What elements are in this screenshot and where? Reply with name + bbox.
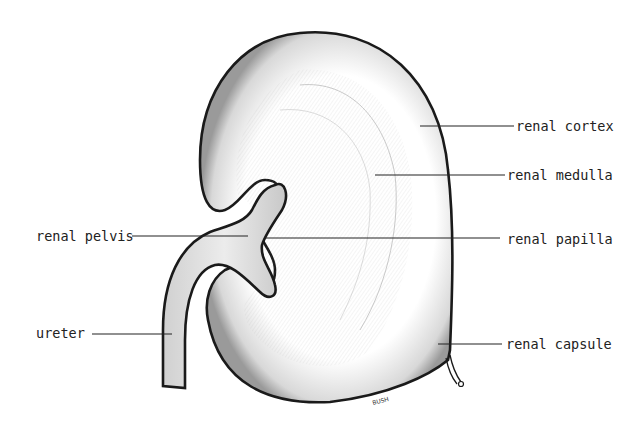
label-renal-pelvis: renal pelvis	[36, 230, 134, 244]
kidney-illustration	[0, 0, 642, 433]
label-renal-cortex: renal cortex	[516, 120, 614, 134]
label-renal-medulla: renal medulla	[507, 169, 613, 183]
label-ureter: ureter	[36, 327, 85, 341]
label-renal-papilla: renal papilla	[507, 233, 613, 247]
kidney-diagram: renal cortex renal medulla renal pelvis …	[0, 0, 642, 433]
label-renal-capsule: renal capsule	[506, 338, 612, 352]
